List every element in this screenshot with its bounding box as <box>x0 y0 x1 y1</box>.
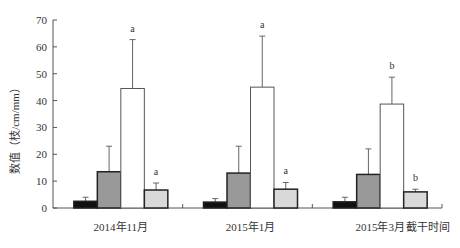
significance-label: b <box>389 60 394 71</box>
bar <box>251 87 275 208</box>
y-tick-label: 10 <box>36 175 48 187</box>
bar <box>204 202 228 208</box>
x-tick-label: 2014年11月 <box>94 220 149 233</box>
y-tick-label: 70 <box>36 14 48 26</box>
bar <box>74 201 98 208</box>
significance-label: b <box>413 172 418 183</box>
bar <box>333 202 357 208</box>
bar <box>357 174 381 208</box>
x-axis-label: 截干时间 <box>406 220 450 233</box>
bar-series: aaaabb <box>74 19 427 208</box>
bar <box>404 192 428 208</box>
y-tick-label: 50 <box>36 68 48 80</box>
y-tick-label: 20 <box>36 148 48 160</box>
significance-label: a <box>154 166 159 177</box>
y-axis-label: 数值（枝/cm/mm） <box>8 82 21 174</box>
bar <box>144 190 168 208</box>
bar <box>274 189 298 208</box>
significance-label: a <box>260 19 265 30</box>
y-tick-label: 30 <box>36 121 48 133</box>
y-tick-label: 60 <box>36 41 48 53</box>
bar-chart: 010203040506070 2014年11月2015年1月2015年3月 a… <box>0 0 460 248</box>
y-tick-label: 40 <box>36 95 48 107</box>
significance-label: a <box>284 165 289 176</box>
x-tick-label: 2015年1月 <box>226 220 276 233</box>
bar <box>227 173 251 208</box>
y-tick-label: 0 <box>42 202 48 214</box>
significance-label: a <box>130 23 135 34</box>
bar <box>121 88 145 208</box>
bar <box>380 104 404 208</box>
x-tick-label: 2015年3月 <box>355 220 405 233</box>
bar <box>97 172 121 208</box>
y-axis: 010203040506070 <box>36 14 57 214</box>
